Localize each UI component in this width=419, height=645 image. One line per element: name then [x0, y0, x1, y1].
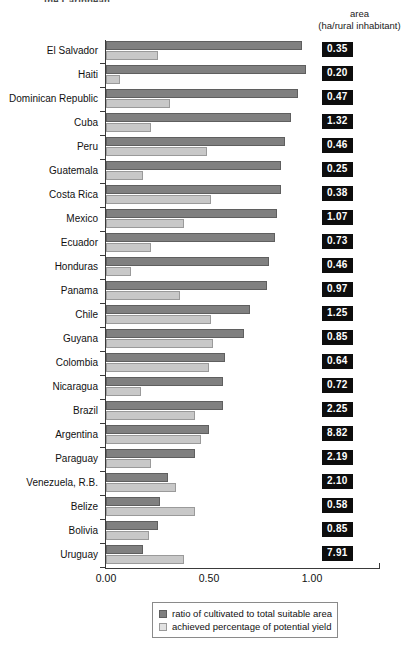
- legend-label-ratio: ratio of cultivated to total suitable ar…: [172, 607, 332, 620]
- chart-legend: ratio of cultivated to total suitable ar…: [152, 602, 338, 638]
- chart-row: Dominican Republic0.47: [0, 88, 419, 112]
- chart-row: Brazil2.25: [0, 400, 419, 424]
- chart-row: Belize0.58: [0, 496, 419, 520]
- bar-ratio-cultivated: [106, 257, 269, 266]
- area-column-header: area (ha/rural inhabitant): [300, 8, 419, 32]
- category-label: Paraguay: [0, 453, 98, 465]
- category-label: Venezuela, R.B.: [0, 477, 98, 489]
- bar-achieved-yield: [106, 195, 211, 204]
- area-value-badge: 0.38: [322, 186, 353, 201]
- area-value-badge: 1.07: [322, 210, 353, 225]
- chart-row: Cuba1.32: [0, 112, 419, 136]
- category-label: Costa Rica: [0, 189, 98, 201]
- bar-ratio-cultivated: [106, 401, 223, 410]
- x-tick-label: 0.00: [96, 572, 116, 584]
- bar-ratio-cultivated: [106, 281, 267, 290]
- bar-ratio-cultivated: [106, 425, 209, 434]
- bar-achieved-yield: [106, 147, 207, 156]
- bar-achieved-yield: [106, 435, 201, 444]
- category-label: Nicaragua: [0, 381, 98, 393]
- bar-achieved-yield: [106, 219, 184, 228]
- area-value-badge: 0.72: [322, 378, 353, 393]
- area-value-badge: 2.19: [322, 450, 353, 465]
- chart-row: Chile1.25: [0, 304, 419, 328]
- bar-achieved-yield: [106, 243, 151, 252]
- bar-ratio-cultivated: [106, 209, 277, 218]
- bar-ratio-cultivated: [106, 329, 244, 338]
- area-header-line1: area: [300, 8, 419, 20]
- bar-achieved-yield: [106, 387, 141, 396]
- chart-title: the Caribbean: [44, 0, 110, 2]
- bar-ratio-cultivated: [106, 185, 281, 194]
- area-value-badge: 0.73: [322, 234, 353, 249]
- area-header-line2: (ha/rural inhabitant): [300, 20, 419, 32]
- category-label: Chile: [0, 309, 98, 321]
- bar-ratio-cultivated: [106, 305, 250, 314]
- category-label: Bolivia: [0, 525, 98, 537]
- bar-achieved-yield: [106, 459, 151, 468]
- bar-ratio-cultivated: [106, 353, 225, 362]
- x-axis-tick-labels: 0.000.501.00: [0, 572, 419, 586]
- dark-gray-swatch-icon: [159, 610, 167, 618]
- bar-ratio-cultivated: [106, 449, 195, 458]
- area-value-badge: 0.58: [322, 498, 353, 513]
- bar-achieved-yield: [106, 291, 180, 300]
- category-label: El Salvador: [0, 45, 98, 57]
- area-value-badge: 0.85: [322, 522, 353, 537]
- category-label: Argentina: [0, 429, 98, 441]
- bar-achieved-yield: [106, 123, 151, 132]
- chart-row: Paraguay2.19: [0, 448, 419, 472]
- category-label: Guatemala: [0, 165, 98, 177]
- bar-ratio-cultivated: [106, 377, 223, 386]
- legend-label-yield: achieved percentage of potential yield: [172, 620, 332, 633]
- category-label: Honduras: [0, 261, 98, 273]
- bar-ratio-cultivated: [106, 521, 158, 530]
- area-value-badge: 8.82: [322, 426, 353, 441]
- legend-item-yield: achieved percentage of potential yield: [159, 620, 331, 633]
- bar-achieved-yield: [106, 51, 158, 60]
- area-value-badge: 0.64: [322, 354, 353, 369]
- x-tick-label: 0.50: [199, 572, 219, 584]
- chart-row: Costa Rica0.38: [0, 184, 419, 208]
- chart-row: Colombia0.64: [0, 352, 419, 376]
- area-value-badge: 0.25: [322, 162, 353, 177]
- category-label: Belize: [0, 501, 98, 513]
- chart-row: Guyana0.85: [0, 328, 419, 352]
- chart-row: Argentina8.82: [0, 424, 419, 448]
- chart-row: Bolivia0.85: [0, 520, 419, 544]
- area-value-badge: 1.32: [322, 114, 353, 129]
- area-value-badge: 0.97: [322, 282, 353, 297]
- bar-achieved-yield: [106, 339, 213, 348]
- category-label: Panama: [0, 285, 98, 297]
- category-label: Peru: [0, 141, 98, 153]
- chart-row: Nicaragua0.72: [0, 376, 419, 400]
- chart-row: Ecuador0.73: [0, 232, 419, 256]
- x-axis-line: [105, 568, 380, 569]
- area-value-badge: 7.91: [322, 546, 353, 561]
- bar-achieved-yield: [106, 411, 195, 420]
- y-axis-tick: [100, 567, 105, 568]
- bar-ratio-cultivated: [106, 137, 285, 146]
- bar-achieved-yield: [106, 363, 209, 372]
- category-label: Brazil: [0, 405, 98, 417]
- area-value-badge: 0.20: [322, 66, 353, 81]
- area-value-badge: 1.25: [322, 306, 353, 321]
- chart-row: El Salvador0.35: [0, 40, 419, 64]
- chart-row: Mexico1.07: [0, 208, 419, 232]
- legend-item-ratio: ratio of cultivated to total suitable ar…: [159, 607, 331, 620]
- chart-row: Haiti0.20: [0, 64, 419, 88]
- bar-ratio-cultivated: [106, 545, 143, 554]
- bar-ratio-cultivated: [106, 65, 306, 74]
- chart-row: Uruguay7.91: [0, 544, 419, 568]
- bar-ratio-cultivated: [106, 497, 160, 506]
- bar-ratio-cultivated: [106, 41, 302, 50]
- bar-ratio-cultivated: [106, 161, 281, 170]
- area-value-badge: 0.47: [322, 90, 353, 105]
- bar-achieved-yield: [106, 555, 184, 564]
- x-tick-label: 1.00: [302, 572, 322, 584]
- category-label: Ecuador: [0, 237, 98, 249]
- category-label: Guyana: [0, 333, 98, 345]
- category-label: Colombia: [0, 357, 98, 369]
- bar-achieved-yield: [106, 267, 131, 276]
- bar-achieved-yield: [106, 75, 120, 84]
